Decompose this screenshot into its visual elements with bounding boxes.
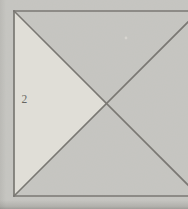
geometry-figure: 2 xyxy=(0,0,188,209)
figure-canvas: 2 xyxy=(0,0,188,209)
grain-overlay xyxy=(0,0,188,209)
